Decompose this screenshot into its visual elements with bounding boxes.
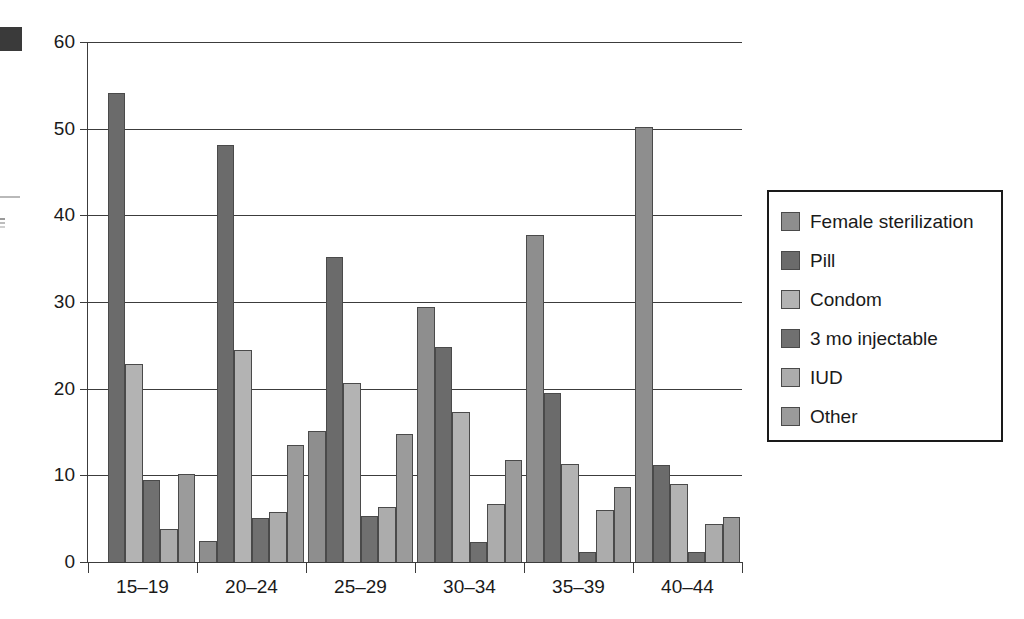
y-axis-tick-label: 50: [35, 119, 75, 138]
y-axis-tick-label: 10: [35, 465, 75, 484]
bar: [526, 235, 544, 562]
chart-page: 0102030405060 15–1920–2425–2930–3435–394…: [0, 0, 1024, 619]
x-axis-tick: [742, 562, 743, 573]
bar: [269, 512, 287, 562]
bar-group: [524, 42, 633, 562]
y-axis-tick-label: 20: [35, 379, 75, 398]
bar-group: [633, 42, 742, 562]
bar: [579, 552, 597, 562]
legend-item-label: Condom: [810, 289, 882, 311]
x-axis-tick-label: 15–19: [88, 576, 197, 599]
bar: [544, 393, 562, 562]
bar: [308, 431, 326, 562]
bar: [326, 257, 344, 562]
legend-swatch-icon: [781, 251, 800, 270]
x-axis-tick: [197, 562, 198, 573]
x-axis-tick-label: 35–39: [524, 576, 633, 599]
y-axis-tick-label: 0: [35, 552, 75, 571]
plot-area: [88, 42, 742, 562]
legend-swatch-icon: [781, 290, 800, 309]
bar: [653, 465, 671, 562]
x-axis-tick-label: 30–34: [415, 576, 524, 599]
bar: [561, 464, 579, 562]
legend-item[interactable]: IUD: [781, 358, 1001, 397]
bar: [487, 504, 505, 562]
y-axis-tick-label: 40: [35, 205, 75, 224]
bar-group: [88, 42, 197, 562]
bar-group: [306, 42, 415, 562]
bar: [435, 347, 453, 562]
bar: [417, 307, 435, 562]
bar: [670, 484, 688, 562]
bar: [361, 516, 379, 562]
x-axis-tick: [415, 562, 416, 573]
bar: [125, 364, 143, 562]
bar-group: [415, 42, 524, 562]
bar: [143, 480, 161, 562]
y-axis-tick-label: 60: [35, 32, 75, 51]
bar: [452, 412, 470, 562]
legend-swatch-icon: [781, 407, 800, 426]
legend-item-label: Other: [810, 406, 858, 428]
bar: [234, 350, 252, 562]
x-axis-tick-label: 25–29: [306, 576, 415, 599]
y-axis-tick-label-wrap: 30: [30, 302, 75, 303]
legend-swatch-icon: [781, 212, 800, 231]
bar: [178, 474, 196, 562]
y-axis-tick-label-wrap: 20: [30, 389, 75, 390]
grouped-bar-chart: 0102030405060 15–1920–2425–2930–3435–394…: [0, 0, 1024, 619]
legend-swatch-icon: [781, 329, 800, 348]
bar: [343, 383, 361, 562]
bar: [723, 517, 741, 562]
legend-item[interactable]: Other: [781, 397, 1001, 436]
bar: [705, 524, 723, 562]
y-axis-tick-label-wrap: 60: [30, 42, 75, 43]
bar: [199, 541, 217, 562]
x-axis-tick: [633, 562, 634, 573]
bar: [470, 542, 488, 562]
legend-swatch-icon: [781, 368, 800, 387]
legend-item[interactable]: Pill: [781, 241, 1001, 280]
x-axis-tick: [524, 562, 525, 573]
bar: [688, 552, 706, 562]
bar-group: [197, 42, 306, 562]
bar: [160, 529, 178, 562]
y-axis-tick-label-wrap: 0: [30, 562, 75, 563]
legend-item[interactable]: 3 mo injectable: [781, 319, 1001, 358]
legend-item-label: Female sterilization: [810, 211, 974, 233]
bar: [596, 510, 614, 562]
legend-item[interactable]: Condom: [781, 280, 1001, 319]
x-axis-tick: [88, 562, 89, 573]
bar: [635, 127, 653, 562]
legend-item-label: 3 mo injectable: [810, 328, 938, 350]
y-axis-tick-label-wrap: 50: [30, 129, 75, 130]
legend-item[interactable]: Female sterilization: [781, 202, 1001, 241]
legend-item-label: IUD: [810, 367, 843, 389]
y-axis-tick-label-wrap: 10: [30, 475, 75, 476]
bar: [287, 445, 305, 562]
y-axis-tick-label-wrap: 40: [30, 215, 75, 216]
bar: [378, 507, 396, 562]
bar: [396, 434, 414, 562]
x-axis-tick-label: 20–24: [197, 576, 306, 599]
legend-item-label: Pill: [810, 250, 835, 272]
y-axis-tick-label: 30: [35, 292, 75, 311]
bar: [505, 460, 523, 562]
x-axis-tick: [306, 562, 307, 573]
chart-legend: Female sterilizationPillCondom3 mo injec…: [767, 190, 1003, 442]
bar: [252, 518, 270, 562]
bar: [614, 487, 632, 562]
bar: [108, 93, 126, 562]
bar: [217, 145, 235, 562]
x-axis-tick-label: 40–44: [633, 576, 742, 599]
